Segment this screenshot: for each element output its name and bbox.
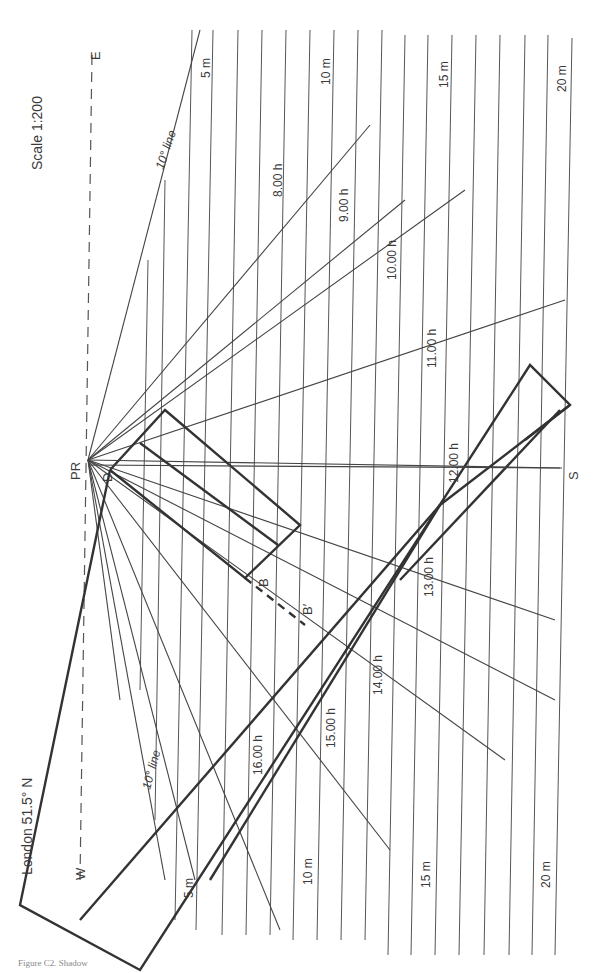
hour-label-8: 8.00 h	[271, 164, 285, 197]
distance-grid	[140, 30, 572, 955]
hour-label-15: 15.00 h	[324, 708, 338, 748]
hour-label-9: 9.00 h	[337, 189, 351, 222]
figure-caption: Figure C2. Shadow	[18, 958, 88, 968]
ten-degree-label-bottom: 10° line	[139, 748, 163, 791]
pr-label: PR	[68, 462, 83, 480]
point-d-label: D	[100, 473, 115, 482]
east-label: E	[88, 51, 103, 60]
hour-label-13: 13.00 h	[422, 557, 436, 597]
scale-label: Scale 1:200	[29, 96, 45, 170]
hour-label-12: 12.00 h	[447, 443, 461, 483]
distance-label-20m-top: 20 m	[555, 65, 569, 92]
distance-label-15m-bottom: 15 m	[419, 861, 433, 888]
hour-label-10: 10.00 h	[385, 240, 399, 280]
point-b-prime-label: B′	[300, 603, 315, 615]
hour-label-16: 16.00 h	[251, 735, 265, 775]
distance-label-15m-top: 15 m	[437, 61, 451, 88]
distance-label-10m-top: 10 m	[319, 58, 333, 85]
distance-label-5m-top: 5 m	[199, 58, 213, 78]
point-b-label: B	[256, 578, 271, 587]
distance-label-10m-bottom: 10 m	[301, 858, 315, 885]
distance-label-20m-bottom: 20 m	[539, 861, 553, 888]
shadow-outline	[20, 365, 570, 970]
distance-label-5m-bottom: 5 m	[182, 878, 196, 898]
location-title: London 51.5° N	[19, 778, 35, 875]
shadow-diagram: Scale 1:200 London 51.5° N E W S PR D B …	[0, 0, 608, 973]
hour-label-11: 11.00 h	[425, 329, 439, 368]
west-label: W	[73, 867, 88, 880]
ten-degree-label-top: 10° line	[153, 128, 179, 171]
south-label: S	[566, 471, 581, 480]
hour-label-14: 14.00 h	[371, 655, 385, 695]
